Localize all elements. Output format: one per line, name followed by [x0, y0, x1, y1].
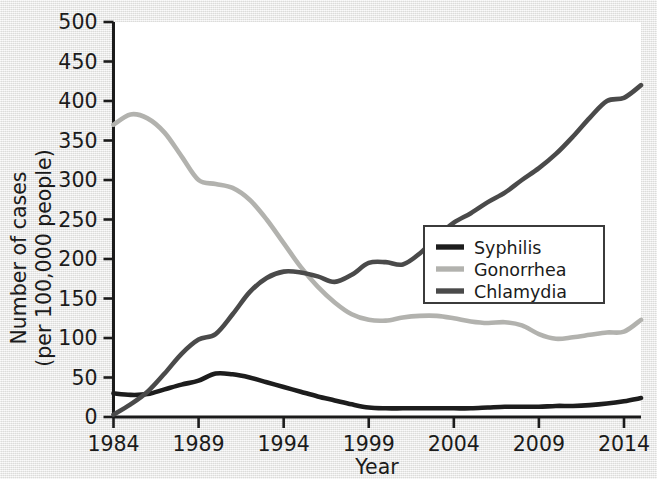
y-axis-tick-label: 300 [58, 168, 97, 192]
y-axis-tick-label: 500 [58, 10, 97, 34]
y-axis-tick-label: 250 [58, 208, 97, 232]
y-axis-tick-label: 150 [58, 287, 97, 311]
x-axis-tick-label: 1984 [87, 432, 139, 456]
x-axis-tick-labels: 1984198919941999200420092014 [87, 432, 650, 456]
y-axis-tick-label: 100 [58, 326, 97, 350]
legend-label-syphilis: Syphilis [474, 238, 541, 258]
legend-label-gonorrhea: Gonorrhea [474, 260, 566, 280]
x-axis-tick-label: 1999 [343, 432, 395, 456]
y-axis-title-line1: Number of cases [7, 172, 31, 345]
x-axis-tick-label: 1989 [172, 432, 224, 456]
x-axis-tick-label: 2014 [598, 432, 650, 456]
x-axis-title: Year [354, 455, 399, 479]
legend-label-chlamydia: Chlamydia [474, 282, 567, 302]
chart-legend: SyphilisGonorrheaChlamydia [424, 226, 604, 303]
x-axis-tick-label: 2004 [428, 432, 480, 456]
plot-area-background [113, 22, 641, 417]
y-axis-tick-label: 0 [84, 405, 97, 429]
y-axis-tick-labels: 050100150200250300350400450500 [58, 10, 97, 429]
chart-svg: 050100150200250300350400450500 198419891… [0, 0, 657, 479]
y-axis-tick-label: 400 [58, 89, 97, 113]
y-axis-tick-label: 50 [71, 366, 97, 390]
x-axis-tick-label: 2009 [513, 432, 565, 456]
chart-figure: 050100150200250300350400450500 198419891… [0, 0, 657, 479]
x-axis-tick-label: 1994 [258, 432, 310, 456]
y-axis-tick-label: 450 [58, 50, 97, 74]
x-axis-ticks [114, 417, 624, 428]
y-axis-tick-label: 200 [58, 247, 97, 271]
y-axis-tick-label: 350 [58, 129, 97, 153]
y-axis-title-line2: (per 100,000 people) [32, 149, 56, 366]
